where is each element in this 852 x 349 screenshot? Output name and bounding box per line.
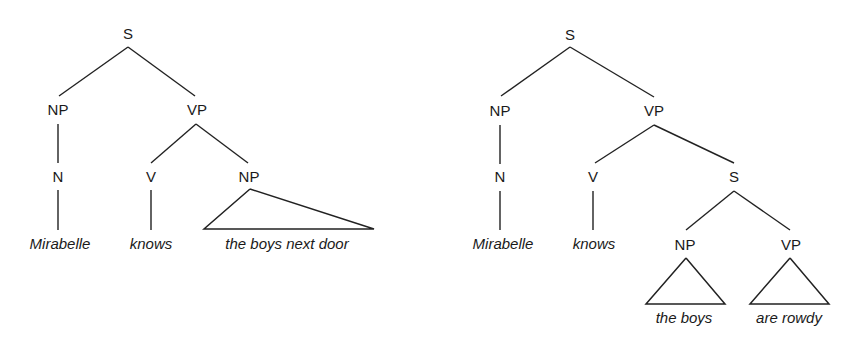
edge-s-np [59, 47, 128, 96]
node-s: S [565, 26, 575, 43]
word-knows: knows [573, 235, 616, 252]
edge-s-vp [128, 47, 195, 96]
node-obj-np: NP [239, 168, 260, 185]
node-v: V [146, 168, 156, 185]
word-mirabelle: Mirabelle [473, 235, 534, 252]
node-vp: VP [187, 101, 207, 118]
word-are-rowdy: are rowdy [756, 309, 823, 326]
node-s: S [123, 25, 133, 42]
syntax-trees-canvas: S NP VP N V NP Mirabelle knows the boys … [0, 0, 852, 349]
node-embedded-s: S [729, 168, 739, 185]
node-vp: VP [644, 102, 664, 119]
node-n: N [53, 168, 64, 185]
left-tree: S NP VP N V NP Mirabelle knows the boys … [30, 25, 374, 252]
triangle-embedded-vp [750, 258, 829, 304]
right-tree: S NP VP N V S Mirabelle knows NP VP the … [473, 26, 829, 326]
edge-vp-v [151, 124, 196, 163]
edge-vp-s [654, 125, 734, 163]
word-the-boys: the boys [656, 309, 713, 326]
edge-s-np [501, 47, 570, 96]
triangle-embedded-np [646, 258, 725, 304]
word-the-boys-next-door: the boys next door [225, 235, 349, 252]
edge-s-vp2 [734, 191, 790, 230]
edge-vp-np [196, 124, 248, 163]
triangle-obj-np [204, 189, 374, 229]
node-embedded-vp: VP [781, 236, 801, 253]
node-embedded-np: NP [675, 236, 696, 253]
node-n: N [495, 168, 506, 185]
node-v: V [588, 168, 598, 185]
node-np: NP [490, 102, 511, 119]
edge-s-np2 [686, 191, 734, 230]
word-knows: knows [130, 235, 173, 252]
word-mirabelle: Mirabelle [30, 235, 91, 252]
edge-s-vp [570, 47, 654, 97]
edge-vp-v [595, 125, 654, 163]
node-np: NP [48, 101, 69, 118]
